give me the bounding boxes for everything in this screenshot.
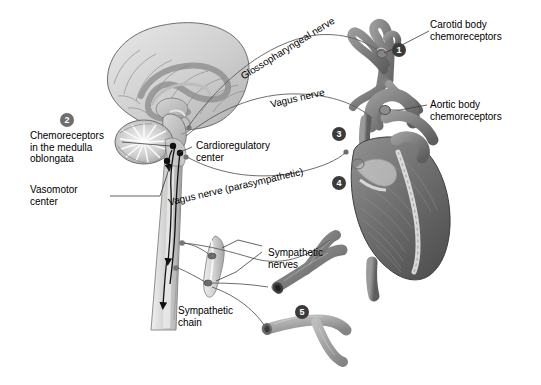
figure-canvas: Carotid body chemoreceptors Aortic body … — [0, 0, 541, 385]
badge-5: 5 — [295, 305, 309, 319]
label-vasomotor-center: Vasomotor center — [30, 184, 78, 207]
blood-vessel-lower — [261, 316, 346, 362]
badge-1: 1 — [392, 43, 406, 57]
badge-4: 4 — [332, 176, 346, 190]
label-aortic-body-chemoreceptors: Aortic body chemoreceptors — [430, 99, 502, 122]
label-sympathetic-nerves: Sympathetic nerves — [268, 247, 323, 270]
sympathetic-chain-lower-link — [178, 268, 207, 283]
leader-sympathetic-nerves-a — [222, 240, 262, 248]
label-carotid-body-chemoreceptors: Carotid body chemoreceptors — [430, 19, 502, 42]
badge-2: 2 — [60, 113, 74, 127]
badge-3: 3 — [332, 127, 346, 141]
label-cardioregulatory-center: Cardioregulatory center — [196, 140, 270, 163]
sympathetic-to-vessel-upper-path — [210, 283, 268, 287]
label-chemoreceptors-medulla-oblongata: Chemoreceptors in the medulla oblongata — [30, 130, 104, 165]
leader-vasomotor — [110, 166, 170, 196]
label-sympathetic-chain: Sympathetic chain — [178, 305, 233, 328]
heart — [343, 137, 450, 296]
